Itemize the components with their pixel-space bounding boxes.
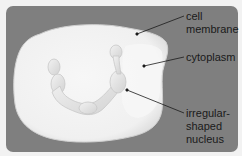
- label-cytoplasm: cytoplasm: [186, 51, 236, 64]
- label-line: shaped: [186, 120, 230, 133]
- label-line: cell: [186, 10, 239, 23]
- label-line: membrane: [186, 23, 239, 36]
- cell-diagram: cell membrane cytoplasm irregular- shape…: [0, 0, 242, 156]
- leader-line-cell-membrane: [137, 16, 184, 34]
- label-cell-membrane: cell membrane: [186, 10, 239, 36]
- label-line: irregular-: [186, 107, 230, 120]
- label-line: cytoplasm: [186, 51, 236, 64]
- label-nucleus: irregular- shaped nucleus: [186, 107, 230, 146]
- label-line: nucleus: [186, 133, 230, 146]
